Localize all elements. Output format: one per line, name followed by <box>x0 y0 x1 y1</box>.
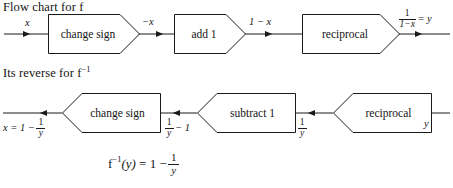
equals-y: = y <box>417 13 431 24</box>
formula-equals: = 1 − <box>139 156 167 171</box>
fraction-denominator: 1−x <box>399 20 416 30</box>
fraction: 1 y <box>168 152 179 177</box>
fraction-numerator: 1 <box>38 118 45 128</box>
edge-label-input-x: x <box>25 17 30 28</box>
box-reciprocal-reverse[interactable]: reciprocal <box>333 93 432 133</box>
box-change-sign-forward[interactable]: change sign <box>48 14 140 54</box>
page-title-reverse: Its reverse for f−1 <box>3 66 91 81</box>
fraction-denominator: y <box>38 129 44 139</box>
box-label: add 1 <box>191 28 216 40</box>
box-label: change sign <box>61 28 116 40</box>
box-change-sign-reverse[interactable]: change sign <box>62 93 161 133</box>
fraction-denominator: y <box>166 129 172 139</box>
output-x-lead: x = 1 − <box>3 122 35 133</box>
box-label: change sign <box>90 107 145 119</box>
fraction-numerator: 1 <box>404 9 411 19</box>
edge-label-one-minus-x: 1 − x <box>249 16 271 27</box>
fraction-numerator: 1 <box>170 152 178 164</box>
edge-label-one-over-y: 1 y <box>296 118 308 140</box>
box-label: subtract 1 <box>230 107 275 119</box>
edge-label-output-reciprocal: 1 1−x = y <box>397 9 432 31</box>
fraction-denominator: y <box>170 165 177 177</box>
minus-one: − 1 <box>175 122 190 133</box>
box-reciprocal-forward[interactable]: reciprocal <box>302 14 400 54</box>
fraction-numerator: 1 <box>166 118 173 128</box>
edge-label-neg-x: −x <box>142 16 154 27</box>
box-label: reciprocal <box>322 28 368 40</box>
box-label: reciprocal <box>366 107 412 119</box>
title-reverse-base: Its reverse for f <box>3 66 81 80</box>
fraction: 1 y <box>298 118 307 140</box>
edge-label-one-over-y-minus-1: 1 y − 1 <box>163 118 190 140</box>
fraction: 1 y <box>165 118 174 140</box>
edge-label-output-x: x = 1 − 1 y <box>3 118 47 140</box>
inverse-function-formula: f−1(y) = 1 − 1 y <box>108 152 181 177</box>
fraction: 1 1−x <box>399 9 416 31</box>
title-reverse-superscript: −1 <box>81 64 90 74</box>
page-title-forward: Flow chart for f <box>3 0 83 15</box>
box-subtract-1[interactable]: subtract 1 <box>197 93 296 133</box>
box-add-1[interactable]: add 1 <box>174 14 246 54</box>
formula-arg: (y) <box>121 156 135 171</box>
edge-label-input-y: y <box>424 118 429 129</box>
fraction-numerator: 1 <box>299 118 306 128</box>
fraction-denominator: y <box>299 129 305 139</box>
fraction: 1 y <box>36 118 45 140</box>
